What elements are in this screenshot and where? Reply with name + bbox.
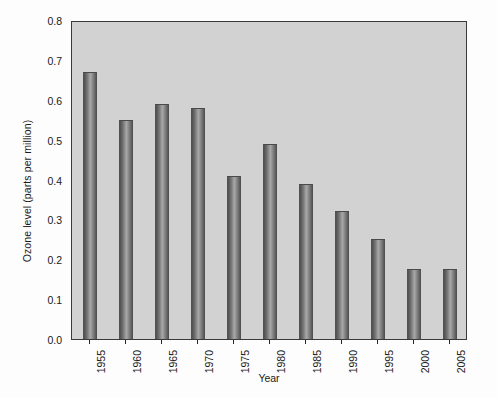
- x-tick-mark: [161, 340, 162, 344]
- y-tick-label: 0.0: [22, 334, 62, 346]
- bar: [335, 211, 349, 339]
- x-tick-mark: [449, 340, 450, 344]
- x-tick-mark: [305, 340, 306, 344]
- y-tick-label: 0.8: [22, 15, 62, 27]
- bar: [119, 120, 133, 339]
- bars-layer: [72, 22, 466, 339]
- bar: [299, 184, 313, 340]
- x-axis-title: Year: [71, 372, 467, 384]
- y-tick-label: 0.3: [22, 214, 62, 226]
- y-tick-label: 0.2: [22, 254, 62, 266]
- bar: [83, 72, 97, 339]
- x-tick-mark: [269, 340, 270, 344]
- y-tick-label: 0.7: [22, 55, 62, 67]
- bar: [155, 104, 169, 339]
- y-tick-label: 0.4: [22, 175, 62, 187]
- x-tick-mark: [197, 340, 198, 344]
- bar: [227, 176, 241, 339]
- x-axis-tick-labels: 1955196019651970197519801985199019952000…: [71, 340, 467, 398]
- x-tick-mark: [89, 340, 90, 344]
- ozone-bar-chart: Ozone level (parts per million) 0.00.10.…: [0, 0, 497, 398]
- y-tick-label: 0.1: [22, 294, 62, 306]
- bar: [191, 108, 205, 339]
- x-tick-mark: [413, 340, 414, 344]
- x-tick-mark: [341, 340, 342, 344]
- bar: [407, 269, 421, 339]
- bar: [371, 239, 385, 339]
- x-tick-mark: [377, 340, 378, 344]
- x-tick-mark: [125, 340, 126, 344]
- y-tick-label: 0.6: [22, 95, 62, 107]
- bar: [443, 269, 457, 339]
- x-tick-mark: [233, 340, 234, 344]
- y-tick-label: 0.5: [22, 135, 62, 147]
- plot-area: [71, 21, 467, 340]
- bar: [263, 144, 277, 339]
- y-axis-tick-labels: 0.00.10.20.30.40.50.60.70.8: [22, 21, 62, 340]
